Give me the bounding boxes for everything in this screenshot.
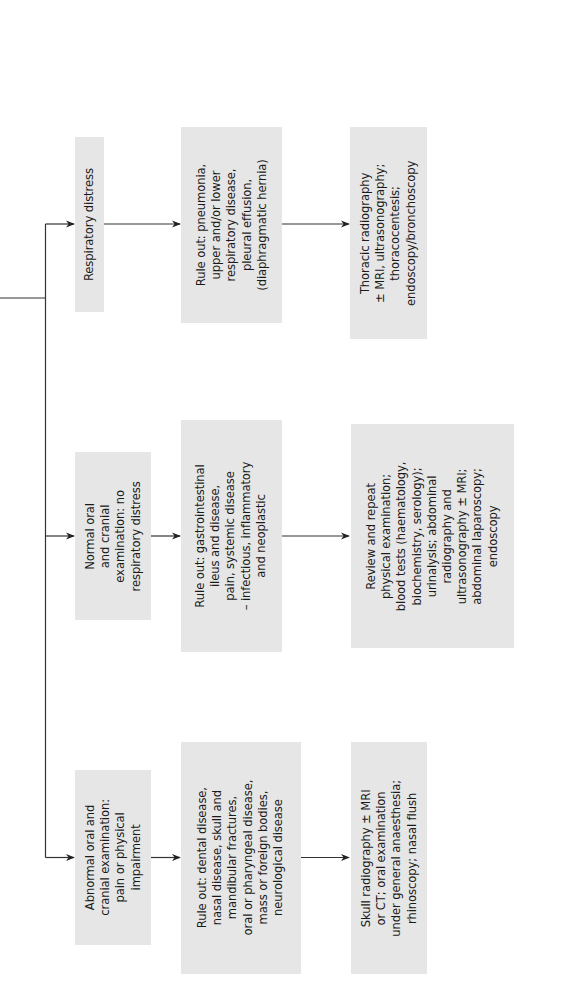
ruleout-box-normal: Rule out: gastrointestinal ileus and dis… xyxy=(181,420,282,652)
ruleout-box-respiratory: Rule out: pneumonia, upper and/or lower … xyxy=(181,127,282,323)
presentation-text-abnormal: Abnormal oral and cranial examination: p… xyxy=(83,799,144,916)
presentation-box-respiratory: Respiratory distress xyxy=(75,137,104,312)
investigations-text-normal: Review and repeat physical examination; … xyxy=(364,461,501,611)
presentation-text-normal: Normal oral and cranial examination: no … xyxy=(83,481,144,591)
ruleout-text-respiratory: Rule out: pneumonia, upper and/or lower … xyxy=(194,159,270,290)
ruleout-box-abnormal: Rule out: dental disease, nasal disease,… xyxy=(181,742,301,974)
investigations-box-abnormal: Skull radiography ± MRI or CT; oral exam… xyxy=(351,742,427,974)
investigations-box-respiratory: Thoracic radiography ± MRI, ultrasonogra… xyxy=(350,127,427,339)
ruleout-text-abnormal: Rule out: dental disease, nasal disease,… xyxy=(195,780,286,936)
investigations-text-abnormal: Skull radiography ± MRI or CT; oral exam… xyxy=(359,780,420,937)
investigations-text-respiratory: Thoracic radiography ± MRI, ultrasonogra… xyxy=(358,160,419,305)
investigations-box-normal: Review and repeat physical examination; … xyxy=(351,424,514,648)
presentation-text-respiratory: Respiratory distress xyxy=(82,168,97,281)
presentation-box-normal: Normal oral and cranial examination: no … xyxy=(75,452,151,620)
ruleout-text-normal: Rule out: gastrointestinal ileus and dis… xyxy=(194,462,270,611)
presentation-box-abnormal: Abnormal oral and cranial examination: p… xyxy=(75,770,151,945)
flowchart: Respiratory distress Rule out: pneumonia… xyxy=(0,0,569,998)
